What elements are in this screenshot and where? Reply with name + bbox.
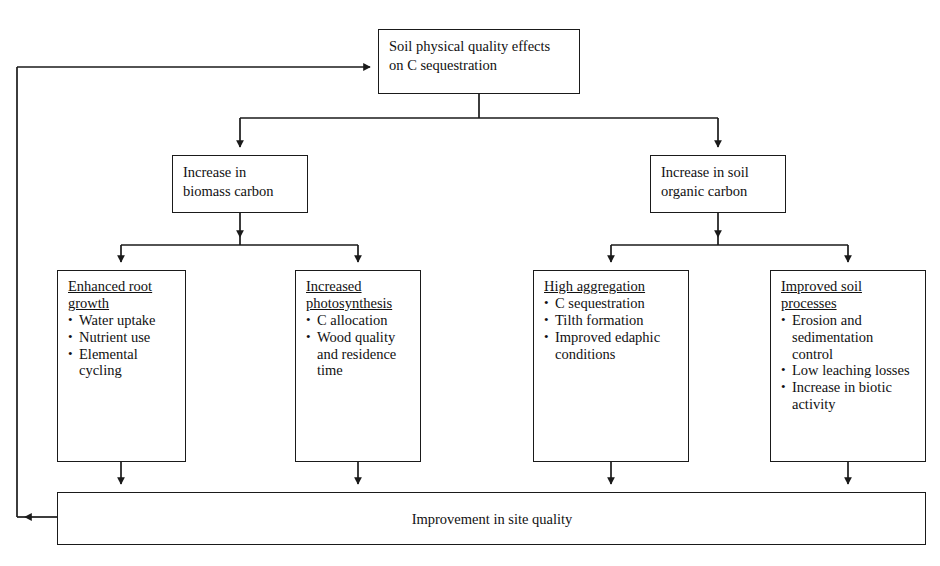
- node-leaf-4-heading: Improved soil processes: [781, 278, 916, 312]
- node-leaf-2-heading: Increased photosynthesis: [306, 278, 411, 312]
- node-leaf-4-bullets: Erosion and sedimentation control Low le…: [781, 312, 916, 414]
- node-top-soil-physical-quality[interactable]: Soil physical quality effects on C seque…: [378, 29, 580, 94]
- node-increase-soil-organic-carbon[interactable]: Increase in soil organic carbon: [650, 155, 786, 213]
- list-item: C sequestration: [544, 295, 679, 312]
- node-enhanced-root-growth[interactable]: Enhanced root growth Water uptake Nutrie…: [57, 270, 186, 462]
- node-improvement-in-site-quality[interactable]: Improvement in site quality: [57, 492, 926, 545]
- list-item: C allocation: [306, 312, 411, 329]
- node-leaf-1-bullets: Water uptake Nutrient use Elemental cycl…: [68, 312, 176, 380]
- node-increased-photosynthesis[interactable]: Increased photosynthesis C allocation Wo…: [295, 270, 421, 462]
- node-leaf-1-heading: Enhanced root growth: [68, 278, 176, 312]
- list-item: Nutrient use: [68, 329, 176, 346]
- flowchart-diagram: Soil physical quality effects on C seque…: [0, 0, 940, 566]
- node-leaf-2-bullets: C allocation Wood quality and residence …: [306, 312, 411, 380]
- list-item: Low leaching losses: [781, 362, 916, 379]
- node-leaf-3-bullets: C sequestration Tilth formation Improved…: [544, 295, 679, 363]
- list-item: Water uptake: [68, 312, 176, 329]
- list-item: Erosion and sedimentation control: [781, 312, 916, 363]
- node-leaf-3-heading: High aggregation: [544, 278, 679, 295]
- node-improved-soil-processes[interactable]: Improved soil processes Erosion and sedi…: [770, 270, 926, 462]
- node-top-label: Soil physical quality effects on C seque…: [389, 38, 550, 73]
- list-item: Improved edaphic conditions: [544, 329, 679, 363]
- list-item: Tilth formation: [544, 312, 679, 329]
- list-item: Elemental cycling: [68, 346, 176, 380]
- list-item: Increase in biotic activity: [781, 379, 916, 413]
- node-mid-left-label: Increase in biomass carbon: [183, 164, 274, 199]
- node-high-aggregation[interactable]: High aggregation C sequestration Tilth f…: [533, 270, 689, 462]
- node-bottom-label: Improvement in site quality: [68, 511, 916, 528]
- list-item: Wood quality and residence time: [306, 329, 411, 380]
- node-mid-right-label: Increase in soil organic carbon: [661, 164, 749, 199]
- node-increase-biomass-carbon[interactable]: Increase in biomass carbon: [172, 155, 308, 213]
